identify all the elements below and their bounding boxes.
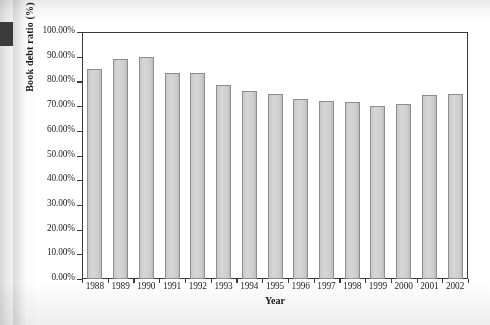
y-tick-label: 50.00% [47, 149, 75, 159]
bar [113, 59, 128, 279]
bar [345, 102, 360, 279]
bar [422, 95, 437, 279]
bar [448, 94, 463, 279]
bar [139, 57, 154, 279]
bar-series [82, 32, 468, 279]
bar [268, 94, 283, 279]
bar [293, 99, 308, 279]
bar [319, 101, 334, 279]
bar [87, 69, 102, 279]
y-tick-label: 100.00% [42, 25, 75, 35]
bar-chart: Book debt ratio (%) 100.00%90.00%80.00%7… [26, 16, 476, 308]
y-tick-label: 0.00% [51, 272, 75, 282]
bar [190, 73, 205, 279]
y-tick-label: 60.00% [47, 124, 75, 134]
y-axis-ticks: 100.00%90.00%80.00%70.00%60.00%50.00%40.… [26, 32, 82, 279]
bar [216, 85, 231, 279]
bar [370, 106, 385, 279]
y-tick-label: 10.00% [47, 247, 75, 257]
y-tick-label: 20.00% [47, 223, 75, 233]
y-tick-label: 80.00% [47, 74, 75, 84]
x-tick-label: 2002 [440, 281, 470, 291]
scan-edge-marker [0, 22, 13, 46]
scanned-page-background: Book debt ratio (%) 100.00%90.00%80.00%7… [0, 0, 490, 325]
y-tick-label: 40.00% [47, 173, 75, 183]
bar [242, 91, 257, 279]
y-tick-label: 30.00% [47, 198, 75, 208]
y-tick-label: 70.00% [47, 99, 75, 109]
bar [396, 104, 411, 279]
bar [165, 73, 180, 279]
y-tick-label: 90.00% [47, 50, 75, 60]
x-axis-labels: 1988198919901991199219931994199519961997… [82, 281, 468, 295]
x-axis-title: Year [82, 295, 468, 306]
